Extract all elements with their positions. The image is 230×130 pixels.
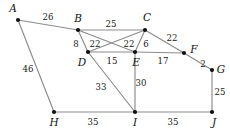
node-label-j: J	[210, 116, 217, 128]
graph-canvas: ABCDEFGHIJ 26462582222622153317302253535	[0, 0, 230, 130]
node-label-f: F	[189, 43, 198, 55]
edge-c-f	[145, 30, 184, 53]
node-label-d: D	[77, 56, 87, 68]
node-label-a: A	[8, 2, 17, 14]
node-label-h: H	[48, 116, 59, 128]
node-dot-f	[182, 51, 186, 55]
node-label-b: B	[73, 12, 82, 24]
edge-e-f	[135, 52, 184, 53]
edge-weight-c-e: 6	[143, 39, 148, 49]
edge-weight-h-i: 35	[88, 117, 99, 127]
node-dot-d	[86, 50, 90, 54]
node-dot-b	[76, 28, 80, 32]
node-dot-i	[133, 110, 137, 114]
node-label-c: C	[143, 11, 151, 23]
edge-weight-f-g: 2	[200, 59, 205, 69]
node-dot-h	[52, 110, 56, 114]
edge-weight-e-i: 30	[136, 78, 147, 88]
edge-weight-d-e: 15	[107, 56, 118, 66]
node-dot-a	[16, 18, 20, 22]
edge-a-b	[18, 20, 78, 30]
node-label-e: E	[131, 56, 140, 68]
edge-weight-b-c: 25	[106, 19, 117, 29]
edge-weight-b-e: 22	[90, 39, 101, 49]
edge-weight-a-b: 26	[43, 12, 54, 22]
edge-weight-c-d: 22	[124, 39, 135, 49]
nodes-group	[16, 18, 214, 114]
edge-f-g	[184, 53, 212, 70]
node-dot-c	[143, 28, 147, 32]
edge-weight-i-j: 35	[168, 117, 179, 127]
node-label-i: I	[132, 116, 138, 128]
edge-weight-a-h: 46	[23, 64, 34, 74]
edge-weight-b-d: 8	[73, 39, 78, 49]
node-label-g: G	[217, 63, 225, 75]
node-dot-j	[210, 110, 214, 114]
node-dot-e	[133, 50, 137, 54]
edge-weight-d-i: 33	[96, 82, 107, 92]
node-dot-g	[210, 68, 214, 72]
edges-group	[18, 20, 212, 112]
edge-weight-e-f: 17	[158, 56, 169, 66]
edge-weight-g-j: 25	[215, 87, 226, 97]
weighted-graph-figure: ABCDEFGHIJ 26462582222622153317302253535	[0, 0, 230, 130]
edge-weight-c-f: 22	[167, 33, 178, 43]
